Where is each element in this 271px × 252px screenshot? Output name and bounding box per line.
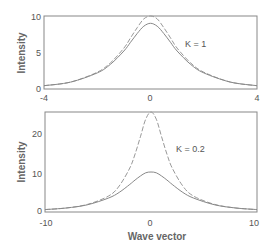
bottom-plot-frame xyxy=(45,112,257,212)
bottom-solid-curve xyxy=(45,172,257,210)
bottom-ytick-20: 20 xyxy=(32,129,42,139)
top-ytick-10: 10 xyxy=(31,12,41,22)
top-solid-curve xyxy=(44,23,257,85)
top-plot-frame xyxy=(44,16,257,89)
bottom-dashed-curve xyxy=(45,112,257,210)
bottom-xtick-max: 10 xyxy=(249,218,259,228)
bottom-ytick-0: 0 xyxy=(37,206,42,216)
x-axis-label: Wave vector xyxy=(128,231,187,242)
bottom-xtick-zero: 0 xyxy=(147,218,152,228)
bottom-ytick-10: 10 xyxy=(32,169,42,179)
chart-figure: 10 5 0 -4 0 4 K = 1 Intensity 20 10 0 -1… xyxy=(0,0,271,252)
bottom-xtick-min: -10 xyxy=(39,218,52,228)
top-ytick-5: 5 xyxy=(36,48,41,58)
bottom-annotation: K = 0.2 xyxy=(176,144,205,154)
bottom-panel: 20 10 0 -10 0 10 K = 0.2 Intensity Wave … xyxy=(16,112,259,242)
top-xtick-zero: 0 xyxy=(147,93,152,103)
top-xtick-max: 4 xyxy=(254,93,259,103)
top-panel: 10 5 0 -4 0 4 K = 1 Intensity xyxy=(16,12,260,103)
top-xtick-min: -4 xyxy=(40,93,48,103)
top-y-axis-label: Intensity xyxy=(16,32,27,74)
top-annotation: K = 1 xyxy=(185,39,206,49)
top-dashed-curve xyxy=(44,16,257,86)
bottom-y-axis-label: Intensity xyxy=(16,141,27,183)
